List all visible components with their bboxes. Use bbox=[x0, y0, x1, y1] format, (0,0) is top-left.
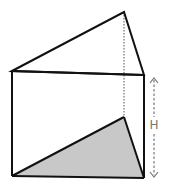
shaded-base-triangle bbox=[12, 117, 144, 178]
prism-diagram: H bbox=[0, 0, 169, 186]
height-label: H bbox=[149, 118, 158, 132]
height-dimension: H bbox=[149, 78, 158, 177]
